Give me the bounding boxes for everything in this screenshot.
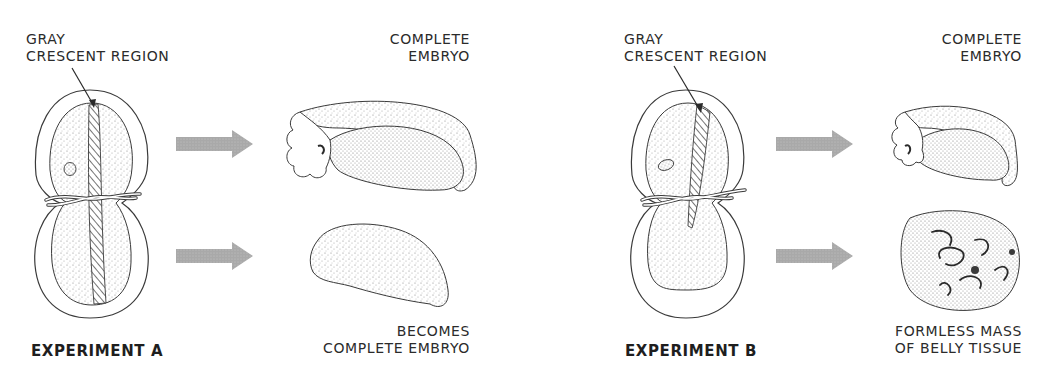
becomes-complete-embryo-label: BECOMES COMPLETE EMBRYO — [300, 323, 470, 357]
gray-crescent-label-b: GRAY CRESCENT REGION — [624, 31, 767, 65]
experiment-b-egg — [631, 66, 745, 318]
arrow-a-bottom-icon — [176, 242, 253, 270]
complete-embryo-label-b: COMPLETE EMBRYO — [912, 31, 1022, 65]
embryo-a-bottom — [310, 224, 448, 306]
formless-mass-label: FORMLESS MASS OF BELLY TISSUE — [862, 323, 1022, 357]
experiment-b-title: EXPERIMENT B — [625, 342, 757, 360]
complete-embryo-label-a: COMPLETE EMBRYO — [360, 31, 470, 65]
complete-embryo-b — [892, 106, 1018, 185]
arrow-a-top-icon — [176, 130, 253, 158]
formless-mass-b — [901, 211, 1019, 311]
experiment-a-egg — [35, 68, 149, 318]
gray-crescent-label-a: GRAY CRESCENT REGION — [26, 31, 169, 65]
complete-embryo-a — [287, 101, 476, 191]
arrow-b-top-icon — [776, 130, 853, 158]
experiment-a-title: EXPERIMENT A — [31, 342, 163, 360]
arrow-b-bottom-icon — [776, 242, 853, 270]
